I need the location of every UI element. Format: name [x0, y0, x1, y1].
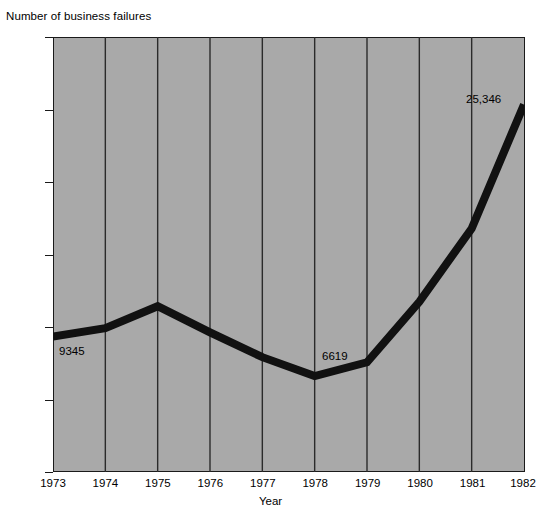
- data-label-6619: 6619: [322, 350, 348, 362]
- y-tick-mark-30000: [45, 37, 53, 38]
- x-tick-label-1979: 1979: [355, 477, 381, 489]
- chart-canvas: [53, 37, 525, 472]
- x-tick-label-1975: 1975: [145, 477, 171, 489]
- x-tick-label-1974: 1974: [93, 477, 119, 489]
- y-tick-mark-25000: [45, 110, 53, 111]
- y-tick-mark-10000: [45, 327, 53, 328]
- x-tick-label-1978: 1978: [302, 477, 328, 489]
- x-tick-label-1973: 1973: [40, 477, 66, 489]
- x-tick-label-1980: 1980: [407, 477, 433, 489]
- x-tick-label-1977: 1977: [250, 477, 276, 489]
- y-tick-mark-5000: [45, 400, 53, 401]
- data-label-9345: 9345: [59, 345, 85, 357]
- y-axis-title: Number of business failures: [6, 10, 151, 22]
- y-tick-mark-0: [45, 472, 53, 473]
- plot-area: [53, 37, 525, 472]
- y-tick-mark-20000: [45, 182, 53, 183]
- x-tick-label-1982: 1982: [510, 477, 536, 489]
- data-series-line: [53, 104, 524, 376]
- x-tick-label-1981: 1981: [460, 477, 486, 489]
- x-tick-label-1976: 1976: [198, 477, 224, 489]
- gridlines-group: [105, 37, 471, 472]
- y-tick-mark-15000: [45, 255, 53, 256]
- x-axis-title: Year: [0, 495, 541, 507]
- business-failures-line-chart: Number of business failures 30,000 25,00…: [0, 0, 541, 510]
- data-label-25346: 25,346: [466, 93, 501, 105]
